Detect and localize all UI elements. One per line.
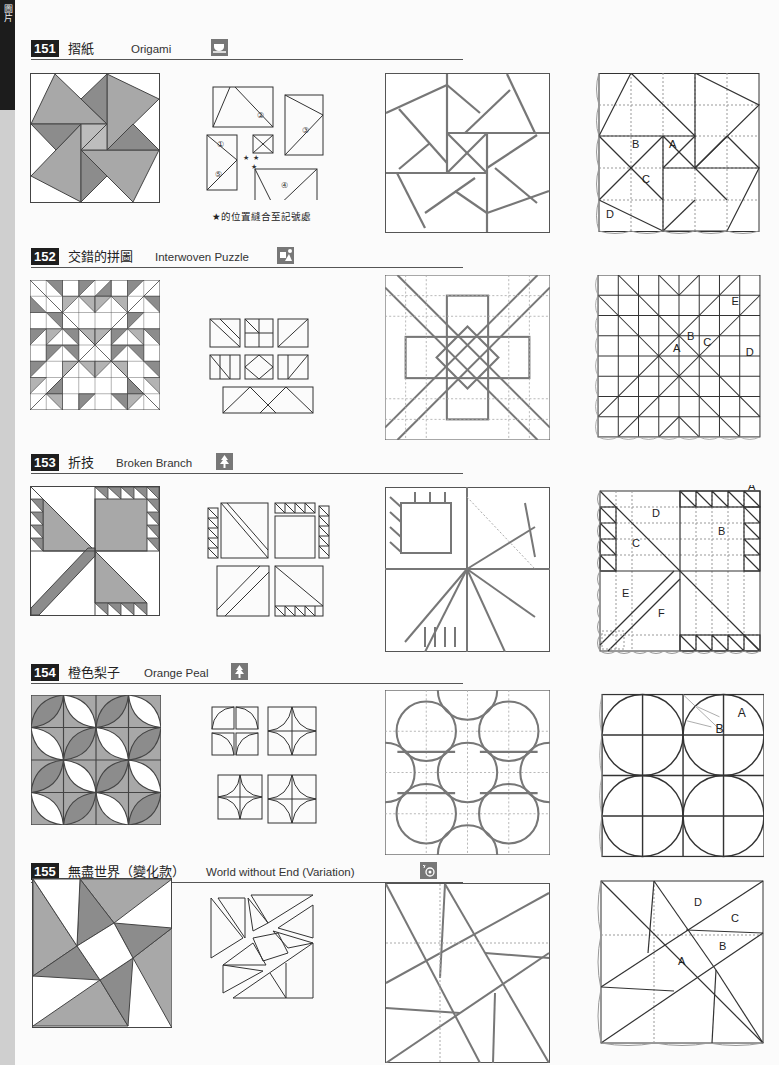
section-153: 153 折技 Broken Branch bbox=[0, 450, 779, 660]
world-without-end-pieces-diagram bbox=[208, 893, 323, 1008]
marker-3: ③ bbox=[302, 126, 309, 135]
pattern-number: 152 bbox=[31, 248, 59, 265]
pattern-title-en: Origami bbox=[131, 41, 171, 58]
origami-pieces-diagram: ② ③ ① ⑤ ④ ★★★ bbox=[205, 85, 330, 200]
marker-2: ② bbox=[257, 111, 264, 120]
section-155: 155 無盡世界（變化款） World without End (Variati… bbox=[0, 850, 779, 1065]
interwoven-template-diagram: A B C D E bbox=[594, 275, 764, 445]
orange-peal-pieces-diagram bbox=[210, 705, 325, 830]
pattern-title-en: Interwoven Puzzle bbox=[155, 249, 249, 266]
world-without-end-template-diagram: A B C D bbox=[596, 880, 771, 1050]
label-E: E bbox=[622, 587, 629, 599]
pattern-number: 153 bbox=[31, 454, 59, 471]
tree-icon bbox=[216, 453, 233, 470]
pattern-title-zh: 摺紙 bbox=[68, 40, 94, 57]
label-A: A bbox=[669, 138, 677, 150]
section-151: 151 摺紙 Origami ② ③ ① ⑤ bbox=[0, 0, 779, 235]
pattern-title-en: Broken Branch bbox=[116, 455, 192, 472]
orange-peal-template-diagram: A B bbox=[594, 693, 764, 858]
marker-5: ⑤ bbox=[215, 170, 222, 179]
label-B: B bbox=[687, 330, 694, 342]
broken-branch-pieces-diagram bbox=[205, 498, 330, 618]
label-D: D bbox=[652, 507, 660, 519]
pattern-title-zh: 折技 bbox=[68, 454, 94, 471]
pattern-title-zh: 橙色梨子 bbox=[68, 664, 120, 681]
label-D: D bbox=[606, 208, 614, 220]
pattern-number: 154 bbox=[31, 664, 59, 681]
origami-seam-diagram bbox=[385, 73, 550, 233]
origami-block-finished bbox=[30, 73, 160, 203]
label-B: B bbox=[719, 940, 726, 952]
label-A: A bbox=[678, 955, 686, 967]
label-C: C bbox=[703, 336, 711, 348]
label-E: E bbox=[732, 295, 739, 307]
pattern-title-en: World without End (Variation) bbox=[206, 864, 355, 881]
spiral-icon bbox=[420, 862, 437, 879]
marker-4: ④ bbox=[281, 181, 288, 190]
sewing-note-caption: ★的位置縫合至記號處 bbox=[212, 209, 311, 223]
section-header: 151 摺紙 Origami bbox=[31, 39, 463, 60]
label-D: D bbox=[694, 896, 702, 908]
label-B: B bbox=[718, 525, 725, 537]
pattern-title-zh: 交錯的拼圖 bbox=[68, 248, 133, 265]
orange-peal-block-finished bbox=[31, 695, 161, 825]
broken-branch-seam-diagram bbox=[385, 487, 550, 652]
svg-text:★: ★ bbox=[251, 163, 257, 171]
label-B: B bbox=[632, 138, 639, 150]
world-without-end-seam-diagram bbox=[385, 883, 550, 1063]
teacup-icon bbox=[211, 39, 228, 56]
marker-1: ① bbox=[217, 140, 224, 149]
broken-branch-template-diagram: A B C D E F bbox=[594, 485, 769, 660]
world-without-end-block-finished bbox=[32, 878, 172, 1028]
interwoven-pieces-diagram bbox=[208, 315, 328, 415]
tree-icon bbox=[231, 663, 248, 680]
section-header: 152 交錯的拼圖 Interwoven Puzzle bbox=[31, 247, 463, 268]
label-D: D bbox=[746, 346, 754, 358]
pattern-number: 151 bbox=[31, 40, 59, 57]
label-B: B bbox=[715, 722, 723, 736]
label-A: A bbox=[673, 342, 681, 354]
section-152: 152 交錯的拼圖 Interwoven Puzzle bbox=[0, 235, 779, 450]
interwoven-seam-diagram bbox=[385, 275, 550, 440]
label-C: C bbox=[731, 912, 739, 924]
interwoven-block-finished bbox=[30, 280, 160, 410]
section-header: 154 橙色梨子 Orange Peal bbox=[31, 663, 463, 684]
origami-template-diagram: A B C D bbox=[594, 73, 764, 235]
pattern-title-en: Orange Peal bbox=[144, 665, 209, 682]
section-header: 153 折技 Broken Branch bbox=[31, 453, 463, 474]
broken-branch-block-finished bbox=[30, 486, 160, 616]
label-A: A bbox=[748, 485, 756, 492]
label-A: A bbox=[738, 706, 747, 720]
label-F: F bbox=[658, 607, 665, 619]
svg-text:★: ★ bbox=[243, 154, 249, 162]
section-154: 154 橙色梨子 Orange Peal bbox=[0, 660, 779, 850]
label-C: C bbox=[642, 173, 650, 185]
puzzle-icon bbox=[277, 247, 294, 264]
orange-peal-seam-diagram bbox=[385, 690, 550, 855]
svg-text:★: ★ bbox=[253, 154, 259, 162]
label-C: C bbox=[632, 537, 640, 549]
